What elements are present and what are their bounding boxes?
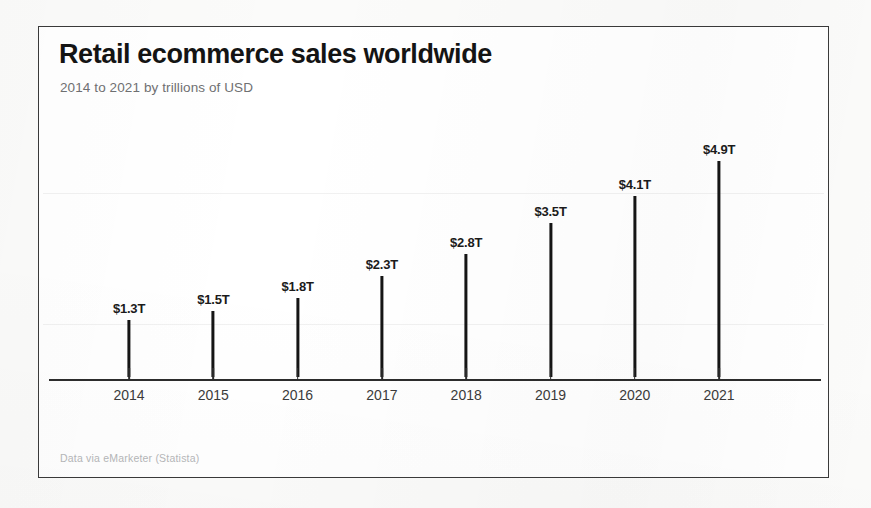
x-tick-label-2019: 2019 — [535, 387, 566, 403]
chart-card-inner: Retail ecommerce sales worldwide 2014 to… — [39, 27, 828, 477]
x-tick-mark-2020 — [634, 368, 636, 379]
bar-2020[interactable] — [633, 196, 636, 377]
bar-2018[interactable] — [465, 254, 468, 377]
bar-value-label-2019: $3.5T — [534, 204, 566, 219]
x-tick-label-2016: 2016 — [282, 387, 313, 403]
x-tick-label-2015: 2015 — [198, 387, 229, 403]
x-tick-label-2020: 2020 — [619, 387, 650, 403]
chart-card: Retail ecommerce sales worldwide 2014 to… — [38, 26, 829, 478]
bar-value-label-2015: $1.5T — [197, 292, 229, 307]
x-tick-mark-2018 — [465, 368, 467, 379]
x-tick-label-2017: 2017 — [366, 387, 397, 403]
bar-2017[interactable] — [380, 276, 383, 377]
x-tick-mark-2019 — [550, 368, 552, 379]
bar-2021[interactable] — [718, 161, 721, 377]
bar-2016[interactable] — [296, 298, 299, 377]
bar-value-label-2014: $1.3T — [113, 301, 145, 316]
x-tick-label-2014: 2014 — [113, 387, 144, 403]
gridline-lower — [43, 324, 824, 325]
bar-value-label-2018: $2.8T — [450, 235, 482, 250]
bar-value-label-2016: $1.8T — [281, 279, 313, 294]
bar-value-label-2021: $4.9T — [703, 142, 735, 157]
bar-value-label-2020: $4.1T — [619, 177, 651, 192]
x-axis-line — [49, 379, 821, 381]
x-tick-mark-2015 — [212, 368, 214, 379]
x-tick-label-2021: 2021 — [704, 387, 735, 403]
bar-2019[interactable] — [549, 223, 552, 377]
x-tick-mark-2017 — [381, 368, 383, 379]
bar-value-label-2017: $2.3T — [366, 257, 398, 272]
x-tick-mark-2014 — [128, 368, 130, 379]
x-tick-label-2018: 2018 — [451, 387, 482, 403]
x-tick-mark-2021 — [718, 368, 720, 379]
plot-area: $1.3T$1.5T$1.8T$2.3T$2.8T$3.5T$4.1T$4.9T… — [39, 27, 828, 477]
gridline-upper — [43, 193, 824, 194]
chart-source-caption: Data via eMarketer (Statista) — [60, 452, 199, 464]
x-tick-mark-2016 — [297, 368, 299, 379]
